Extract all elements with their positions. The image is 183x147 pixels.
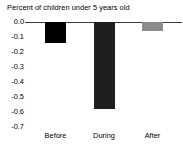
y-tick-label: -0.7: [2, 123, 24, 131]
bar-before: [45, 22, 66, 43]
y-tick-label: -0.6: [2, 108, 24, 116]
y-tick-label: -0.3: [2, 63, 24, 71]
bar-after: [142, 22, 163, 31]
y-tick-label: 0.0: [2, 18, 24, 26]
bar-during: [94, 22, 115, 109]
y-tick-label: -0.1: [2, 33, 24, 41]
y-tick-label: -0.2: [2, 48, 24, 56]
y-tick-label: -0.4: [2, 78, 24, 86]
y-axis-tick-labels: 0.0-0.1-0.2-0.3-0.4-0.5-0.6-0.7: [0, 0, 24, 147]
x-label-after: After: [123, 131, 183, 140]
y-tick-label: -0.5: [2, 93, 24, 101]
plot-area: 0.0-0.1-0.2-0.3-0.4-0.5-0.6-0.7 BeforeDu…: [0, 0, 182, 147]
bar-chart: Percent of children under 5 years old 0.…: [0, 0, 182, 147]
